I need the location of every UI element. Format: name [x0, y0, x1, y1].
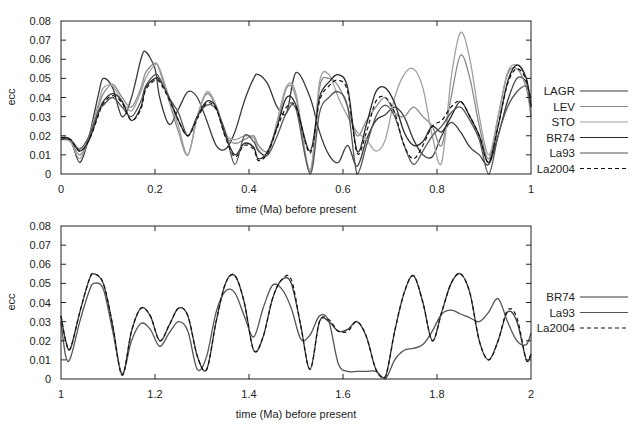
top-y-axis-label: ecc — [5, 88, 17, 106]
y-tick-label: 0.08 — [30, 220, 51, 232]
chart-bottom: 00.010.020.030.040.050.060.070.0811.21.4… — [5, 220, 628, 420]
x-tick-label: 0.8 — [429, 183, 444, 195]
legend-label-sto: STO — [552, 116, 575, 128]
bottom-x-axis-label: time (Ma) before present — [236, 408, 356, 420]
y-tick-label: 0.07 — [30, 239, 51, 251]
y-tick-label: 0.04 — [30, 297, 51, 309]
y-tick-label: 0.06 — [30, 258, 51, 270]
x-tick-label: 0.4 — [241, 183, 256, 195]
top-plot-lines — [61, 32, 531, 174]
x-tick-label: 1.6 — [335, 388, 350, 400]
x-tick-label: 0.2 — [147, 183, 162, 195]
y-tick-label: 0.03 — [30, 111, 51, 123]
y-tick-label: 0 — [45, 168, 51, 180]
x-tick-label: 1.4 — [241, 388, 256, 400]
x-tick-label: 1.2 — [147, 388, 162, 400]
y-tick-label: 0.03 — [30, 316, 51, 328]
chart-top: 00.010.020.030.040.050.060.070.0800.20.4… — [5, 15, 628, 215]
y-tick-label: 0.02 — [30, 130, 51, 142]
y-tick-label: 0.05 — [30, 72, 51, 84]
legend-label-la93: La93 — [549, 147, 575, 159]
y-tick-label: 0 — [45, 373, 51, 385]
x-tick-label: 2 — [528, 388, 534, 400]
legend-label-la2004: La2004 — [537, 322, 576, 334]
x-tick-label: 1 — [528, 183, 534, 195]
x-tick-label: 1.8 — [429, 388, 444, 400]
legend-label-br74: BR74 — [546, 291, 575, 303]
legend-label-lagr: LAGR — [544, 85, 575, 97]
y-tick-label: 0.01 — [30, 149, 51, 161]
legend-label-lev: LEV — [553, 101, 575, 113]
y-tick-label: 0.05 — [30, 277, 51, 289]
y-tick-label: 0.02 — [30, 335, 51, 347]
y-tick-label: 0.07 — [30, 34, 51, 46]
x-tick-label: 1 — [58, 388, 64, 400]
legend-label-la93: La93 — [549, 307, 575, 319]
series-line-br74 — [61, 65, 531, 163]
bottom-axis-ticks: 00.010.020.030.040.050.060.070.0811.21.4… — [30, 220, 534, 400]
figure: 00.010.020.030.040.050.060.070.0800.20.4… — [0, 0, 642, 428]
top-legend: LAGRLEVSTOBR74La93La2004 — [537, 85, 628, 175]
legend-label-la2004: La2004 — [537, 163, 576, 175]
x-tick-label: 0 — [58, 183, 64, 195]
y-tick-label: 0.01 — [30, 354, 51, 366]
y-tick-label: 0.08 — [30, 15, 51, 27]
bottom-legend: BR74La93La2004 — [537, 291, 628, 334]
y-tick-label: 0.04 — [30, 92, 51, 104]
series-line-la2004 — [61, 69, 531, 163]
x-tick-label: 0.6 — [335, 183, 350, 195]
legend-label-br74: BR74 — [546, 132, 575, 144]
series-line-la93 — [61, 74, 531, 174]
bottom-plot-lines — [61, 273, 531, 379]
bottom-y-axis-label: ecc — [5, 293, 17, 311]
top-x-axis-label: time (Ma) before present — [236, 203, 356, 215]
y-tick-label: 0.06 — [30, 53, 51, 65]
